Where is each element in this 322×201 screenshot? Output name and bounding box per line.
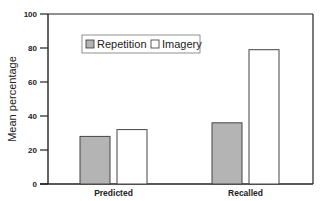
y-tick-label: 100: [24, 10, 38, 19]
y-tick-label: 0: [33, 180, 38, 189]
legend-label-repetition: Repetition: [97, 38, 147, 50]
y-axis-ticks: 020406080100: [24, 10, 48, 189]
bar-recalled-repetition: [212, 123, 242, 184]
bar-chart: 020406080100 PredictedRecalled Mean perc…: [0, 0, 322, 201]
y-tick-label: 20: [28, 146, 37, 155]
y-tick-label: 60: [28, 78, 37, 87]
legend-swatch-repetition: [86, 40, 94, 48]
legend-label-imagery: Imagery: [162, 38, 202, 50]
legend-swatch-imagery: [151, 40, 159, 48]
bar-recalled-imagery: [249, 50, 279, 184]
y-tick-label: 80: [28, 44, 37, 53]
bar-predicted-imagery: [117, 130, 147, 184]
y-tick-label: 40: [28, 112, 37, 121]
y-axis-label: Mean percentage: [6, 56, 18, 142]
legend: Repetition Imagery: [82, 35, 202, 53]
x-axis-category-labels: PredictedRecalled: [94, 188, 263, 198]
x-category-label: Predicted: [94, 188, 133, 198]
x-category-label: Recalled: [228, 188, 263, 198]
bars: [80, 50, 279, 184]
bar-predicted-repetition: [80, 136, 110, 184]
